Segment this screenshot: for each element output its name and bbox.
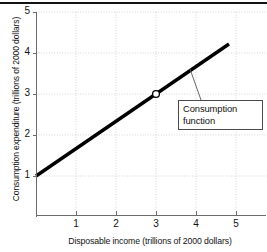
data-point-marker: [153, 91, 160, 98]
x-tick-label-5: 5: [229, 218, 243, 229]
x-tick-mark-1: [76, 211, 77, 215]
y-tick-mark-5: [33, 12, 37, 13]
x-tick-label-1: 1: [69, 218, 83, 229]
x-tick-mark-4: [196, 211, 197, 215]
label-line-2: function: [183, 115, 262, 127]
y-axis-line: [36, 12, 37, 217]
label-line-1: Consumption: [183, 103, 262, 115]
x-tick-label-2: 2: [109, 218, 123, 229]
x-tick-label-4: 4: [189, 218, 203, 229]
x-tick-mark-2: [116, 211, 117, 215]
x-tick-mark-5: [236, 211, 237, 215]
consumption-function-label-box: Consumption function: [178, 100, 263, 130]
x-axis-line: [36, 215, 266, 216]
y-tick-mark-3: [33, 94, 37, 95]
y-tick-mark-4: [33, 53, 37, 54]
chart-figure: 5 4 3 2 1 1 2 3 4 5 Consumption function…: [0, 0, 267, 252]
x-tick-label-3: 3: [149, 218, 163, 229]
x-tick-mark-3: [156, 211, 157, 215]
x-axis-title: Disposable income (trillions of 2000 dol…: [34, 236, 266, 246]
y-tick-mark-2: [33, 135, 37, 136]
y-axis-title: Consumption expenditure (trillions of 20…: [11, 9, 21, 209]
annotation-leader-line: [190, 69, 201, 100]
y-tick-mark-1: [33, 176, 37, 177]
